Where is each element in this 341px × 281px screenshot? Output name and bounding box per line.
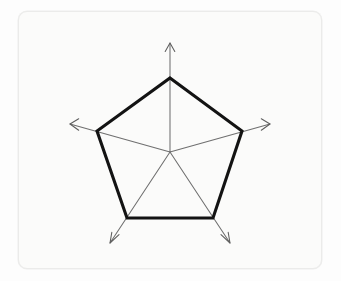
- axis-line-5: [70, 124, 170, 152]
- radar-chart: [0, 0, 341, 281]
- arrowhead-icon-axis-3: [221, 232, 230, 243]
- figure-background: [0, 0, 341, 281]
- arrowhead-icon-axis-2: [261, 119, 270, 131]
- axis-line-2: [170, 124, 270, 152]
- arrowhead-icon-axis-5: [70, 119, 79, 131]
- arrowhead-icon-axis-4: [110, 232, 119, 243]
